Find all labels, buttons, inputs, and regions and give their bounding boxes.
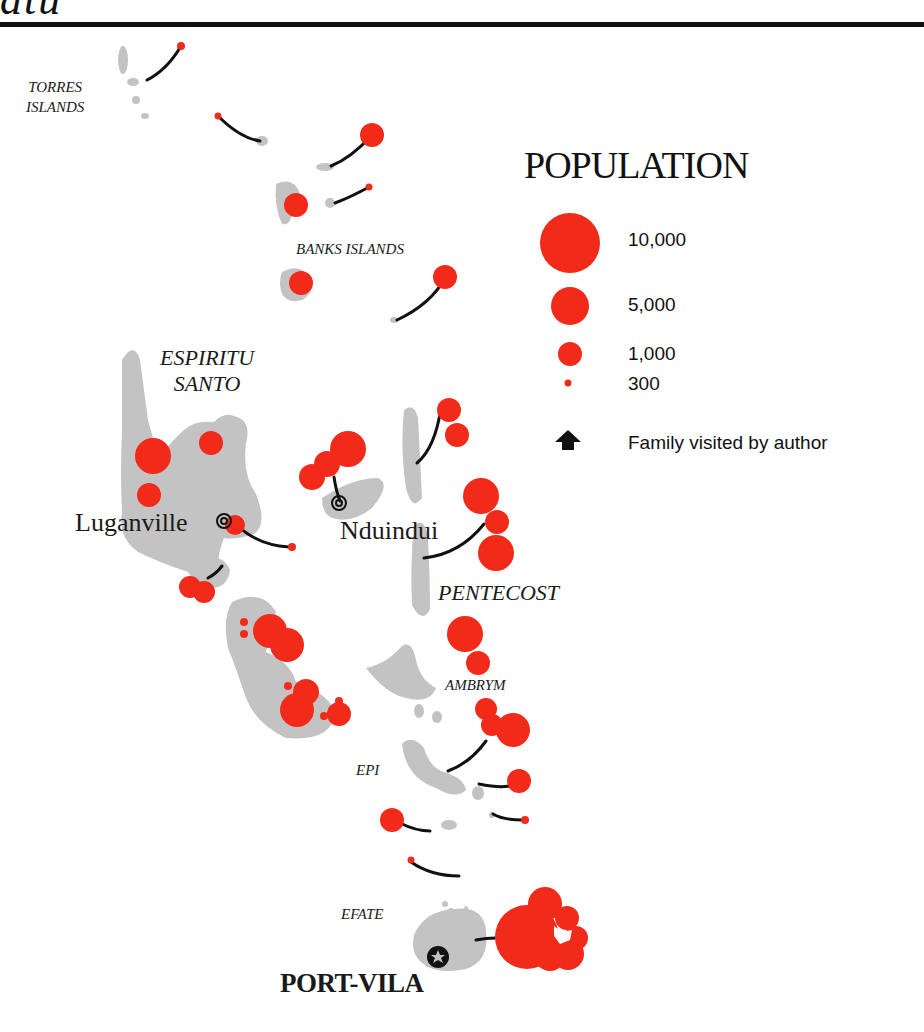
label-efate: EFATE [341, 906, 384, 923]
label-nduindui: Nduindui [340, 516, 438, 546]
label-espiritu-santo: ESPIRITU SANTO [160, 345, 254, 397]
family-arrow-icon [555, 430, 581, 450]
label-torres-islands: TORRES ISLANDS [26, 77, 84, 117]
label-espiritu-line2: SANTO [160, 371, 254, 397]
label-torres-line2: ISLANDS [26, 97, 84, 117]
capital-marker [427, 946, 449, 968]
label-banks-islands: BANKS ISLANDS [296, 241, 404, 258]
legend-title: POPULATION [524, 143, 748, 187]
label-torres-line1: TORRES [26, 77, 84, 97]
label-pentecost: PENTECOST [438, 580, 559, 606]
label-port-vila: PORT-VILA [280, 968, 424, 999]
legend-label-300: 300 [628, 373, 660, 395]
legend-symbols [540, 213, 600, 387]
legend-label-family: Family visited by author [628, 432, 828, 454]
label-ambrym: AMBRYM [445, 677, 506, 694]
legend-label-10000: 10,000 [628, 229, 686, 251]
legend-label-1000: 1,000 [628, 343, 676, 365]
legend-label-5000: 5,000 [628, 294, 676, 316]
label-luganville: Luganville [75, 508, 188, 538]
label-epi: EPI [356, 762, 379, 779]
label-espiritu-line1: ESPIRITU [160, 345, 254, 371]
